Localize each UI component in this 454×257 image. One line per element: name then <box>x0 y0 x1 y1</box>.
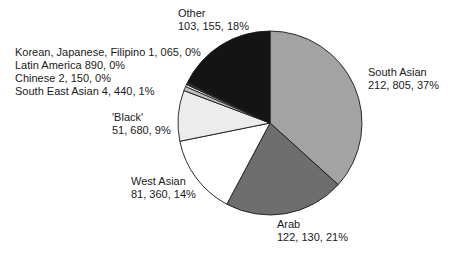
label-south-asian-value: 212, 805, 37% <box>368 79 439 92</box>
label-other-name: Other <box>178 7 249 20</box>
label-west-asian-value: 81, 360, 14% <box>131 188 196 201</box>
label-south-asian-name: South Asian <box>368 66 439 79</box>
label-arab: Arab 122, 130, 21% <box>277 218 348 244</box>
label-black-name: 'Black' <box>112 111 171 124</box>
label-other: Other 103, 155, 18% <box>178 7 249 33</box>
label-south-asian: South Asian 212, 805, 37% <box>368 66 439 92</box>
label-sea: South East Asian 4, 440, 1% <box>15 85 201 98</box>
label-latin: Latin America 890, 0% <box>15 59 201 72</box>
label-west-asian: West Asian 81, 360, 14% <box>131 175 196 201</box>
label-arab-value: 122, 130, 21% <box>277 231 348 244</box>
label-korean: Korean, Japanese, Filipino 1, 065, 0% <box>15 46 201 59</box>
pie-chart <box>0 0 454 257</box>
label-west-asian-name: West Asian <box>131 175 196 188</box>
label-black-value: 51, 680, 9% <box>112 124 171 137</box>
label-black: 'Black' 51, 680, 9% <box>112 111 171 137</box>
label-arab-name: Arab <box>277 218 348 231</box>
label-other-value: 103, 155, 18% <box>178 20 249 33</box>
label-chinese: Chinese 2, 150, 0% <box>15 72 201 85</box>
label-small-slices: Korean, Japanese, Filipino 1, 065, 0% La… <box>15 46 201 98</box>
